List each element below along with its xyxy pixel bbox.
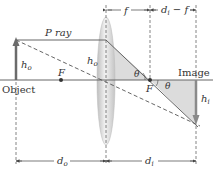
focal-left-label: F [57,67,66,78]
lens-ray-diagram: P ray ho ho Object Image F F θ θ hi f di… [0,0,213,174]
focal-right-label: F [145,83,154,94]
focal-point-left [59,78,63,82]
object-label: Object [2,84,35,95]
p-ray-label: P ray [44,27,72,38]
focal-point-right [148,78,152,82]
theta-right-label: θ [165,81,171,91]
theta-left-label: θ [134,69,140,79]
image-label: Image [178,67,210,78]
h-o-lens-label: ho [87,55,98,68]
h-i-label: hi [201,93,210,106]
h-o-object-label: ho [21,59,32,72]
